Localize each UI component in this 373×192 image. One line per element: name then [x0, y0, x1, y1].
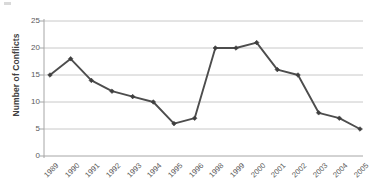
data-point-marker	[234, 46, 239, 51]
chart-container: Number of Conflicts 25 20 15 10 5 0 19	[0, 0, 373, 192]
gridlines	[44, 21, 363, 129]
data-point-marker	[213, 46, 218, 51]
data-point-marker	[192, 116, 197, 121]
data-point-marker	[130, 94, 135, 99]
y-axis-ticks	[40, 21, 44, 156]
data-series-line	[50, 43, 360, 129]
